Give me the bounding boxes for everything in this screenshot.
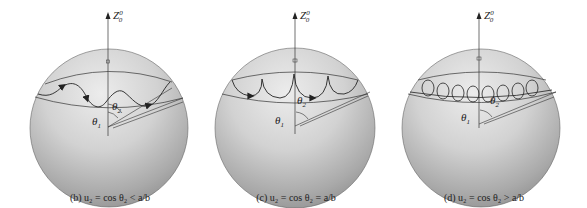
symmetric-top-nutation-figure: Z00 θ2 θ1 (b) u₂ = cos θ₂ < a/b Z [0,0,587,208]
axis-label: Z00 [300,9,310,24]
caption-c: (c) u₂ = cos θ₂ = a/b [256,192,336,204]
panel-b: Z00 θ2 θ1 (b) u₂ = cos θ₂ < a/b [30,9,188,207]
axis-label: Z00 [113,9,123,24]
z-axis-arrow-icon [477,12,482,19]
z-axis-arrow-icon [106,12,111,19]
axis-label: Z00 [484,9,494,24]
z-axis-arrow-icon [293,12,298,19]
panel-d: Z00 θ2 θ1 (d) u₂ = cos θ₂ > a/b [402,9,560,207]
sphere [402,49,560,207]
panel-c: Z00 θ2 θ1 (c) u₂ = cos θ₂ = a/b [215,9,375,208]
caption-b: (b) u₂ = cos θ₂ < a/b [70,192,150,204]
caption-d: (d) u₂ = cos θ₂ > a/b [444,192,524,204]
sphere [30,49,188,207]
